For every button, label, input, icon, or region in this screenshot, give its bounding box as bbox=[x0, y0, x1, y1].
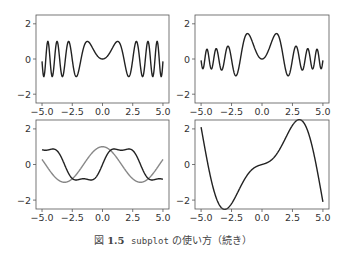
x-tick-label: −5.0 bbox=[190, 212, 213, 223]
y-tick-label: 0 bbox=[184, 54, 190, 65]
y-tick-label: 0 bbox=[25, 54, 31, 65]
x-tick-label: 0.0 bbox=[254, 106, 269, 117]
x-tick-label: 0.0 bbox=[95, 106, 110, 117]
x-tick-label: 5.0 bbox=[315, 212, 330, 223]
series-line bbox=[42, 149, 163, 180]
figure-caption: 図 1.5 subplot の使い方（続き） bbox=[0, 232, 346, 247]
y-tick-label: 0 bbox=[184, 159, 190, 170]
x-tick-label: 5.0 bbox=[155, 212, 170, 223]
y-tick-label: 2 bbox=[25, 123, 31, 134]
subplot-bottom-left: −5.0−2.50.02.55.0−202 bbox=[17, 120, 171, 223]
x-tick-label: 0.0 bbox=[254, 212, 269, 223]
y-tick-label: 2 bbox=[184, 123, 190, 134]
y-tick-label: 0 bbox=[25, 159, 31, 170]
series-line bbox=[42, 41, 163, 76]
x-tick-label: 0.0 bbox=[95, 212, 110, 223]
x-tick-label: −2.5 bbox=[61, 212, 84, 223]
x-tick-label: −5.0 bbox=[190, 106, 213, 117]
x-tick-label: −5.0 bbox=[31, 212, 54, 223]
series-line bbox=[201, 120, 323, 210]
y-tick-label: −2 bbox=[17, 89, 31, 100]
x-tick-label: 5.0 bbox=[315, 106, 330, 117]
subplot-top-right: −5.0−2.50.02.55.0−202 bbox=[176, 15, 330, 117]
x-tick-label: 2.5 bbox=[125, 106, 140, 117]
series-line bbox=[201, 34, 323, 76]
x-tick-label: 2.5 bbox=[125, 212, 140, 223]
x-tick-label: 2.5 bbox=[285, 212, 300, 223]
subplot-bottom-right: −5.0−2.50.02.55.0−202 bbox=[176, 120, 330, 223]
y-tick-label: −2 bbox=[176, 195, 190, 206]
figure: −5.0−2.50.02.55.0−202−5.0−2.50.02.55.0−2… bbox=[0, 0, 346, 232]
caption-number: 1.5 bbox=[107, 235, 124, 246]
x-tick-label: −2.5 bbox=[220, 106, 243, 117]
y-tick-label: 2 bbox=[25, 18, 31, 29]
caption-prefix: 図 bbox=[94, 235, 104, 246]
x-tick-label: −2.5 bbox=[220, 212, 243, 223]
caption-code: subplot bbox=[131, 236, 169, 246]
x-tick-label: 2.5 bbox=[285, 106, 300, 117]
caption-text: の使い方（続き） bbox=[169, 235, 252, 246]
y-tick-label: 2 bbox=[184, 18, 190, 29]
y-tick-label: −2 bbox=[17, 195, 31, 206]
x-tick-label: −5.0 bbox=[31, 106, 54, 117]
x-tick-label: −2.5 bbox=[61, 106, 84, 117]
x-tick-label: 5.0 bbox=[155, 106, 170, 117]
subplot-top-left: −5.0−2.50.02.55.0−202 bbox=[17, 15, 171, 117]
y-tick-label: −2 bbox=[176, 89, 190, 100]
